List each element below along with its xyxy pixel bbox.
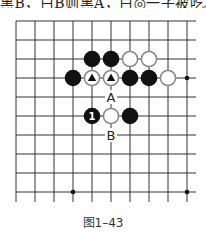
go-board: AB1 — [0, 0, 206, 210]
white-stone — [160, 70, 175, 85]
black-stone — [141, 70, 158, 87]
black-stone — [84, 51, 101, 68]
point-label-a: A — [107, 90, 116, 105]
white-stone — [141, 51, 156, 66]
black-stone — [122, 70, 139, 87]
black-stone — [103, 51, 120, 68]
star-point — [185, 76, 190, 81]
star-point — [71, 190, 76, 195]
black-stone — [122, 108, 139, 125]
figure-caption: 图1–43 — [0, 213, 206, 230]
point-label-b: B — [107, 128, 116, 143]
move-number-label: 1 — [89, 111, 96, 122]
white-stone — [103, 108, 118, 123]
star-point — [185, 190, 190, 195]
black-stone — [65, 70, 82, 87]
white-stone — [122, 51, 137, 66]
